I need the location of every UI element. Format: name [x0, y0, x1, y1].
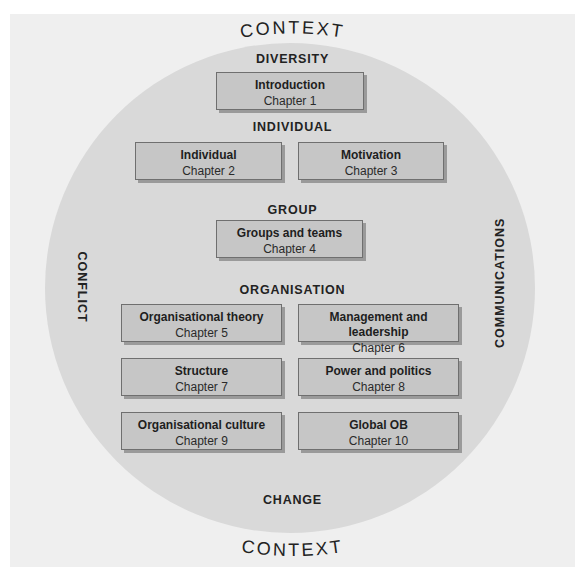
context-label-top: CONTEXT: [239, 17, 347, 41]
chapter-number: Chapter 2: [136, 163, 281, 179]
chapter-box-3[interactable]: Motivation Chapter 3: [298, 142, 444, 180]
chapter-box-9[interactable]: Organisational culture Chapter 9: [121, 412, 282, 450]
chapter-title: Organisational theory: [122, 310, 281, 325]
chapter-title: Global OB: [299, 418, 458, 433]
chapter-title: Power and politics: [299, 364, 458, 379]
heading-diversity: DIVERSITY: [0, 52, 585, 66]
chapter-number: Chapter 8: [299, 379, 458, 395]
chapter-title: Motivation: [299, 148, 443, 163]
chapter-number: Chapter 3: [299, 163, 443, 179]
chapter-title: Individual: [136, 148, 281, 163]
chapter-number: Chapter 9: [122, 433, 281, 449]
chapter-number: Chapter 4: [217, 241, 362, 257]
chapter-box-6[interactable]: Management and leadership Chapter 6: [298, 304, 459, 342]
chapter-box-10[interactable]: Global OB Chapter 10: [298, 412, 459, 450]
chapter-title: Groups and teams: [217, 226, 362, 241]
chapter-box-4[interactable]: Groups and teams Chapter 4: [216, 220, 363, 258]
chapter-number: Chapter 7: [122, 379, 281, 395]
heading-conflict: CONFLICT: [75, 247, 89, 327]
chapter-title: Structure: [122, 364, 281, 379]
chapter-box-8[interactable]: Power and politics Chapter 8: [298, 358, 459, 396]
chapter-number: Chapter 5: [122, 325, 281, 341]
chapter-title: Introduction: [217, 78, 363, 93]
chapter-box-7[interactable]: Structure Chapter 7: [121, 358, 282, 396]
heading-group: GROUP: [0, 203, 585, 217]
heading-change: CHANGE: [0, 493, 585, 507]
chapter-number: Chapter 6: [299, 340, 458, 356]
chapter-title: Organisational culture: [122, 418, 281, 433]
chapter-number: Chapter 1: [217, 93, 363, 109]
heading-communications: COMMUNICATIONS: [493, 218, 507, 348]
chapter-title: Management and leadership: [299, 310, 458, 340]
chapter-box-5[interactable]: Organisational theory Chapter 5: [121, 304, 282, 342]
heading-individual: INDIVIDUAL: [0, 120, 585, 134]
chapter-number: Chapter 10: [299, 433, 458, 449]
context-label-bottom: CONTEXT: [240, 536, 344, 560]
chapter-box-2[interactable]: Individual Chapter 2: [135, 142, 282, 180]
chapter-box-1[interactable]: Introduction Chapter 1: [216, 72, 364, 110]
